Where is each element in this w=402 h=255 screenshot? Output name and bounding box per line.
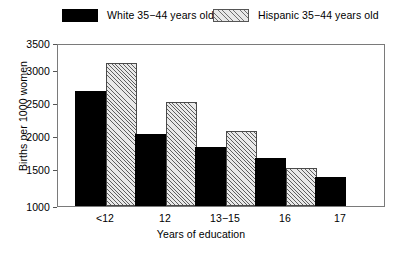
y-axis-title: Births per 1000 women [17, 41, 29, 191]
legend-label-white: White 35−44 years old [107, 9, 214, 21]
legend-item-hispanic: Hispanic 35−44 years old [213, 6, 379, 24]
y-tick-1000: 1000 [26, 201, 57, 213]
y-tick-label-2000: 2000 [26, 131, 53, 143]
bar-hispanic-13-15 [226, 131, 257, 206]
legend-swatch-hatched-gray-icon [213, 9, 249, 22]
y-tick-label-3500: 3500 [26, 38, 53, 50]
plot-area [57, 44, 385, 207]
chart-legend: White 35−44 years old Hispanic 35−44 yea… [0, 6, 402, 26]
x-tick-label-lt12: <12 [96, 212, 114, 224]
y-tick-label-2500: 2500 [26, 98, 53, 110]
x-tick-label-16: 16 [279, 212, 291, 224]
legend-swatch-solid-black-icon [62, 9, 98, 22]
y-tick-2500: 2500 [26, 98, 57, 110]
x-tick-label-17: 17 [334, 212, 346, 224]
y-tick-1500: 1500 [26, 164, 57, 176]
bar-white-lt12 [75, 91, 106, 206]
x-tick-label-13-15: 13−15 [210, 212, 240, 224]
y-tick-label-3000: 3000 [26, 65, 53, 77]
bar-hispanic-12 [166, 102, 197, 206]
bar-white-16 [255, 158, 286, 206]
x-axis-title: Years of education [0, 228, 402, 240]
bar-white-12 [135, 134, 166, 206]
bar-chart-figure: White 35−44 years old Hispanic 35−44 yea… [0, 0, 402, 255]
legend-item-white: White 35−44 years old [62, 6, 214, 24]
y-tick-2000: 2000 [26, 131, 57, 143]
bar-hispanic-16 [286, 168, 317, 206]
y-tick-label-1500: 1500 [26, 164, 53, 176]
y-tick-3000: 3000 [26, 65, 57, 77]
bar-white-17 [315, 177, 346, 206]
y-tick-3500: 3500 [26, 38, 57, 50]
legend-label-hispanic: Hispanic 35−44 years old [258, 9, 379, 21]
bar-white-13-15 [195, 147, 226, 206]
x-tick-label-12: 12 [159, 212, 171, 224]
x-axis: <12 12 13−15 16 17 [57, 209, 385, 227]
y-tick-label-1000: 1000 [26, 201, 53, 213]
bar-hispanic-lt12 [106, 63, 137, 206]
